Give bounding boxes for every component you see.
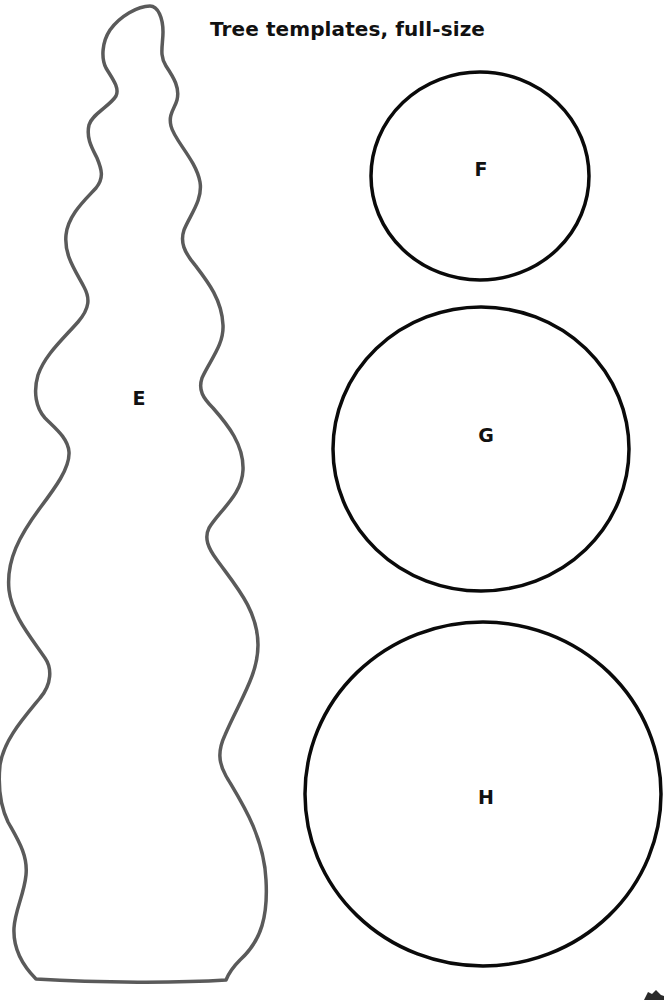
templates-canvas [0,0,664,1000]
tree-template-e-outline [0,6,266,982]
template-label-h: H [478,788,494,807]
template-label-g: G [478,426,494,445]
template-label-e: E [133,389,146,408]
circle-template-g [333,307,629,591]
page-curl-mark-icon [642,986,664,1000]
template-label-f: F [475,160,488,179]
